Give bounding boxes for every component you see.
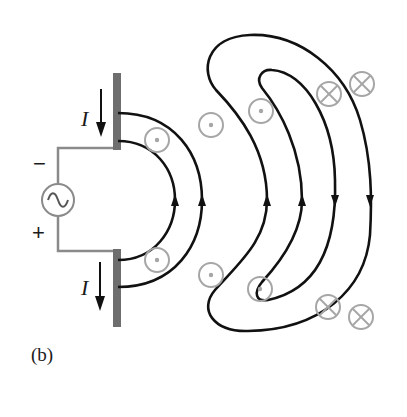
cross-circle-icon — [350, 72, 374, 96]
current-label-bottom: I — [81, 275, 88, 301]
dot-circle-icon — [199, 113, 223, 137]
dot-circle-icon — [199, 263, 223, 287]
current-label-top: I — [81, 106, 88, 132]
near-field-lines — [118, 113, 202, 287]
diagram-canvas — [0, 0, 407, 417]
minus-sign: − — [33, 151, 46, 177]
dipole-antenna — [113, 73, 121, 327]
antenna-upper-arm — [113, 73, 121, 150]
plus-sign: + — [32, 220, 45, 246]
current-arrows — [95, 89, 106, 311]
dipole-radiation-diagram: I I − + (b) — [0, 0, 407, 417]
dot-circle-icon — [145, 248, 169, 272]
cross-circle-icon — [316, 295, 340, 319]
into-page-symbols — [316, 72, 374, 329]
cross-circle-icon — [317, 82, 341, 106]
out-of-page-symbols — [145, 99, 273, 301]
dot-circle-icon — [145, 128, 169, 152]
dot-circle-icon — [249, 99, 273, 123]
figure-caption: (b) — [31, 344, 53, 366]
radiated-field-loops — [208, 35, 371, 331]
ac-source — [42, 184, 74, 216]
dot-circle-icon — [248, 277, 272, 301]
radiated-field-arrows — [263, 194, 374, 207]
cross-circle-icon — [349, 305, 373, 329]
